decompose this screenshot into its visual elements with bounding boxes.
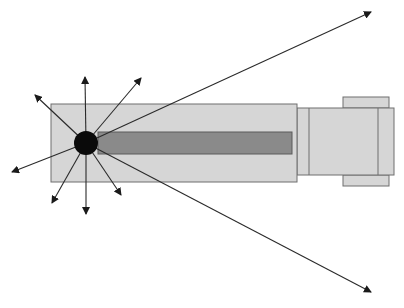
cap-top-tab [343, 97, 389, 108]
light-source-dot [74, 131, 98, 155]
flashlight-inner-bar [98, 132, 292, 154]
diagram-canvas [0, 0, 404, 308]
cap-bottom-tab [343, 175, 389, 186]
flashlight-cap [297, 108, 394, 175]
flashlight-diagram [0, 0, 404, 308]
